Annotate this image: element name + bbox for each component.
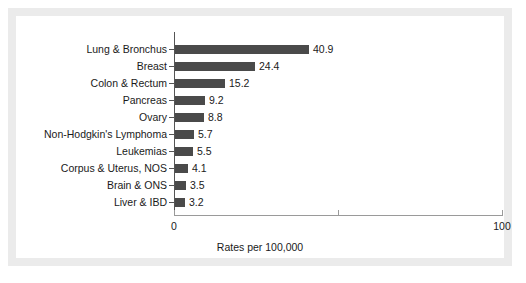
x-axis-line	[174, 215, 503, 216]
y-axis-tick	[169, 66, 174, 67]
category-label: Colon & Rectum	[91, 75, 167, 92]
bar	[175, 198, 185, 207]
x-axis-title: Rates per 100,000	[16, 241, 504, 253]
bar-row: Leukemias5.5	[16, 143, 504, 160]
bar-value-label: 4.1	[192, 160, 207, 177]
bar-value-label: 24.4	[259, 58, 279, 75]
bar	[175, 113, 204, 122]
bar-row: Liver & IBD3.2	[16, 194, 504, 211]
y-axis-tick	[169, 100, 174, 101]
y-axis-tick	[169, 151, 174, 152]
bar-value-label: 5.5	[197, 143, 212, 160]
y-axis-tick	[169, 202, 174, 203]
y-axis-tick	[169, 168, 174, 169]
chart-frame: Lung & Bronchus40.9Breast24.4Colon & Rec…	[8, 8, 512, 266]
bar-value-label: 5.7	[198, 126, 213, 143]
bar	[175, 45, 309, 54]
bar	[175, 62, 255, 71]
category-label: Pancreas	[123, 92, 167, 109]
bar-row: Ovary8.8	[16, 109, 504, 126]
bar-value-label: 40.9	[313, 41, 333, 58]
bar	[175, 181, 186, 190]
bar-chart: Lung & Bronchus40.9Breast24.4Colon & Rec…	[16, 16, 504, 258]
bar-row: Corpus & Uterus, NOS4.1	[16, 160, 504, 177]
y-axis-tick	[169, 83, 174, 84]
bar	[175, 164, 188, 173]
category-label: Breast	[137, 58, 167, 75]
y-axis-tick	[169, 185, 174, 186]
bar-row: Brain & ONS3.5	[16, 177, 504, 194]
y-axis-tick	[169, 49, 174, 50]
category-label: Brain & ONS	[107, 177, 167, 194]
bar	[175, 79, 225, 88]
bar	[175, 147, 193, 156]
bar	[175, 96, 205, 105]
category-label: Leukemias	[116, 143, 167, 160]
category-label: Corpus & Uterus, NOS	[61, 160, 167, 177]
y-axis-tick	[169, 117, 174, 118]
bar	[175, 130, 194, 139]
bar-row: Breast24.4	[16, 58, 504, 75]
bar-value-label: 3.2	[189, 194, 204, 211]
x-axis-tick-label: 0	[154, 220, 194, 232]
x-axis-tick	[174, 210, 175, 215]
category-label: Non-Hodgkin's Lymphoma	[44, 126, 167, 143]
x-axis-tick	[502, 210, 503, 215]
category-label: Lung & Bronchus	[86, 41, 167, 58]
bar-row: Colon & Rectum15.2	[16, 75, 504, 92]
bar-value-label: 8.8	[208, 109, 223, 126]
bar-row: Non-Hodgkin's Lymphoma5.7	[16, 126, 504, 143]
bar-row: Pancreas9.2	[16, 92, 504, 109]
bar-value-label: 3.5	[190, 177, 205, 194]
bar-value-label: 9.2	[209, 92, 224, 109]
y-axis-tick	[169, 134, 174, 135]
category-label: Ovary	[139, 109, 167, 126]
bar-row: Lung & Bronchus40.9	[16, 41, 504, 58]
bar-value-label: 15.2	[229, 75, 249, 92]
category-label: Liver & IBD	[114, 194, 167, 211]
x-axis-tick-label: 100	[482, 220, 522, 232]
x-axis-tick	[338, 210, 339, 215]
